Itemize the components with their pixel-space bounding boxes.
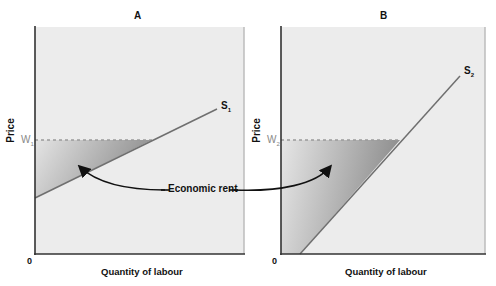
panel-b-curve-label: S2 [464, 65, 474, 78]
panel-a-x-label: Quantity of labour [101, 266, 183, 277]
panel-b [280, 26, 486, 255]
panel-a-wage-label: W1 [21, 134, 34, 147]
panel-b-wage-label: W2 [267, 134, 280, 147]
panel-b-origin: 0 [272, 256, 277, 266]
panel-a [34, 26, 245, 255]
economic-rent-diagram [0, 0, 496, 286]
panel-a-y-label: Price [5, 118, 16, 142]
panel-a-title: A [134, 10, 141, 21]
panel-a-origin: 0 [27, 256, 32, 266]
panel-b-y-label: Price [251, 118, 262, 142]
panel-a-curve-label: S1 [221, 100, 231, 113]
economic-rent-label: Economic rent [168, 183, 237, 194]
panel-b-title: B [380, 10, 387, 21]
panel-b-x-label: Quantity of labour [345, 266, 427, 277]
